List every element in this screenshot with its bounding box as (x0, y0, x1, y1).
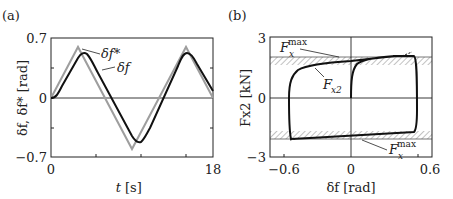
a-xlabel-var: t (116, 180, 122, 195)
b-xtick-right: 0.6 (420, 162, 441, 177)
annotation-delta-f-star: δf* (101, 46, 121, 61)
b-ylabel: Fx2 [kN] (238, 69, 253, 127)
panel-a-plot (51, 38, 213, 157)
annotation-fmax-bottom-sub: x (398, 151, 403, 161)
a-ytick-bottom: −0.7 (15, 150, 47, 165)
b-ytick-bottom: −3 (247, 150, 266, 165)
annotation-fmax-top-sup: max (288, 37, 307, 47)
a-xtick-18: 18 (205, 162, 222, 177)
panel-a-tag: (a) (2, 8, 20, 23)
a-xtick-0: 0 (47, 162, 55, 177)
a-ytick-top: 0.7 (26, 31, 47, 46)
series-fx2 (289, 56, 417, 139)
b-ytick-top: 3 (258, 31, 266, 46)
annotation-delta-f: δf (117, 60, 132, 75)
b-xlabel: δf [rad] (326, 180, 375, 195)
figure: (a) δf* δf 0.7 0 −0.7 0 18 t [s] δf, δf*… (0, 0, 453, 199)
annotation-fmax-bottom-sup: max (397, 139, 416, 149)
annotation-fx2-sub: x2 (331, 85, 342, 95)
b-xtick-left: −0.6 (268, 162, 300, 177)
a-ylabel: δf, δf* [rad] (15, 60, 30, 136)
b-xtick-zero: 0 (347, 162, 355, 177)
a-ytick-zero: 0 (39, 91, 47, 106)
panel-b-tag: (b) (228, 8, 246, 23)
annotation-fmax-top-sub: x (289, 49, 294, 59)
b-ytick-zero: 0 (258, 91, 266, 106)
a-xlabel-unit: [s] (125, 180, 142, 195)
